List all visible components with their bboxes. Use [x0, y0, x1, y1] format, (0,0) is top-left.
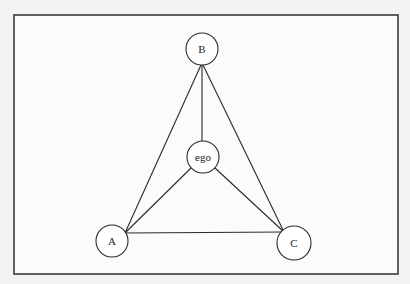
node-ego: ego — [187, 141, 219, 173]
node-label: B — [198, 43, 205, 55]
node-label: A — [108, 235, 116, 247]
node-a: A — [96, 225, 128, 257]
network-diagram: BegoAC — [0, 0, 410, 284]
diagram-stage: BegoAC — [0, 0, 410, 284]
node-label: C — [290, 237, 297, 249]
node-label: ego — [195, 151, 211, 163]
node-c: C — [277, 226, 311, 260]
node-b: B — [186, 33, 218, 65]
